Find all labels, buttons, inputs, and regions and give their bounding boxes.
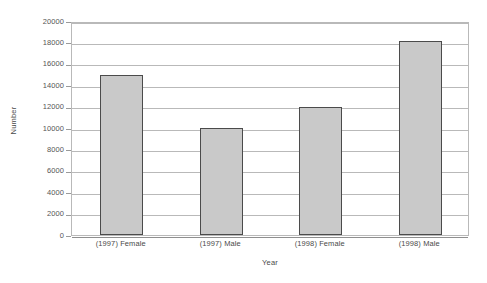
y-axis-tick-mark [66,236,71,237]
y-axis-tick-label: 12000 [43,102,64,111]
x-axis-title: Year [71,258,469,267]
y-axis-tick-label: 10000 [43,124,64,133]
x-axis-tick-label: (1997) Female [71,239,171,248]
bar-chart-figure: Number 020004000600080001000012000140001… [0,0,487,283]
y-axis-tick-label: 14000 [43,81,64,90]
x-axis-tick-label: (1998) Male [370,239,470,248]
y-axis-tick-label: 20000 [43,17,64,26]
bar [200,128,243,235]
gridline [72,237,468,238]
plot-area [71,22,469,236]
bar [399,41,442,235]
y-axis-tick-label: 2000 [47,209,64,218]
y-axis-tick-label: 4000 [47,188,64,197]
y-axis-tick-label: 8000 [47,145,64,154]
x-axis-tick-labels: (1997) Female(1997) Male(1998) Female(19… [71,239,469,255]
x-axis-tick-label: (1998) Female [270,239,370,248]
y-axis-tick-label: 0 [60,231,64,240]
bar-series [72,23,468,235]
y-axis-tick-label: 18000 [43,38,64,47]
x-axis-tick-label: (1997) Male [171,239,271,248]
y-axis-tick-label: 6000 [47,166,64,175]
y-axis-tick-label: 16000 [43,59,64,68]
bar [100,75,143,236]
y-axis-ticks: 0200040006000800010000120001400016000180… [0,22,71,236]
bar [299,107,342,235]
